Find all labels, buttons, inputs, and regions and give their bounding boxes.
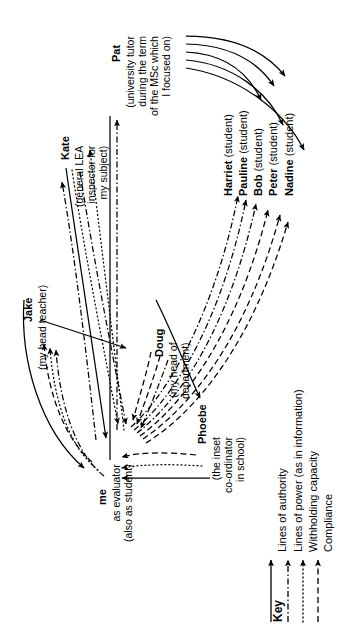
key-label-withholding: Withholding capacity (307, 451, 320, 552)
relationship-diagram: Pat (university tutor during the term of… (0, 0, 343, 629)
key-label-power: Lines of power (as in information) (292, 389, 305, 552)
key-label-compliance: Compliance (322, 494, 335, 552)
key-label-authority: Lines of authority (276, 468, 289, 552)
